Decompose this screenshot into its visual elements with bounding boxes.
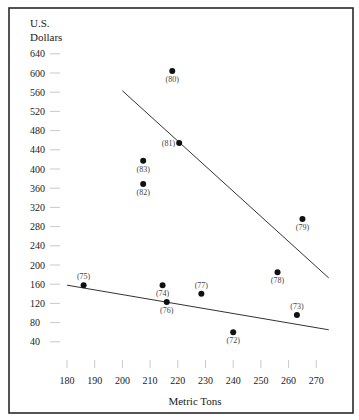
y-tick-label: 360 [30, 183, 45, 194]
y-axis-label-line1: U.S. [30, 17, 50, 29]
data-point [169, 68, 175, 74]
data-point-label: (76) [160, 306, 174, 315]
data-point-label: (79) [296, 223, 310, 232]
data-point-label: (73) [290, 302, 304, 311]
data-point [275, 269, 281, 275]
trend-lines [67, 91, 329, 330]
y-tick-label: 440 [30, 144, 45, 155]
data-point [299, 216, 305, 222]
data-point [160, 282, 166, 288]
y-axis-ticks: 6406005605204804404003603202802402001601… [30, 48, 60, 347]
trend-line [122, 91, 328, 278]
chart-frame [9, 8, 353, 413]
data-point-label: (80) [166, 75, 180, 84]
y-tick-label: 120 [30, 298, 45, 309]
x-tick-label: 250 [253, 375, 268, 386]
data-point [176, 140, 182, 146]
data-points: (72)(73)(74)(75)(76)(77)(78)(79)(80)(81)… [77, 68, 309, 345]
data-point [164, 299, 170, 305]
x-tick-label: 230 [198, 375, 213, 386]
data-point [140, 158, 146, 164]
scatter-chart: U.S. Dollars 640600560520480440400360320… [0, 0, 359, 420]
data-point [81, 282, 87, 288]
x-tick-label: 190 [87, 375, 102, 386]
y-tick-label: 200 [30, 260, 45, 271]
y-tick-label: 280 [30, 221, 45, 232]
x-tick-label: 200 [115, 375, 130, 386]
y-axis-label-line2: Dollars [30, 31, 62, 43]
y-tick-label: 80 [30, 317, 40, 328]
data-point [230, 329, 236, 335]
data-point-label: (81) [162, 139, 176, 148]
data-point [294, 312, 300, 318]
data-point [198, 291, 204, 297]
x-axis-ticks: 180190200210220230240250260270 [60, 360, 324, 386]
y-tick-label: 600 [30, 68, 45, 79]
y-tick-label: 400 [30, 164, 45, 175]
x-tick-label: 240 [226, 375, 241, 386]
data-point-label: (78) [271, 276, 285, 285]
data-point-label: (83) [137, 165, 151, 174]
x-tick-label: 220 [170, 375, 185, 386]
data-point-label: (77) [195, 281, 209, 290]
x-tick-label: 260 [281, 375, 296, 386]
x-axis-label: Metric Tons [168, 395, 221, 407]
data-point-label: (75) [77, 272, 91, 281]
y-tick-label: 520 [30, 106, 45, 117]
x-tick-label: 270 [309, 375, 324, 386]
y-tick-label: 160 [30, 279, 45, 290]
data-point-label: (82) [137, 188, 151, 197]
y-tick-label: 640 [30, 48, 45, 59]
data-point-label: (72) [227, 336, 241, 345]
data-point-label: (74) [156, 289, 170, 298]
x-tick-label: 180 [60, 375, 75, 386]
y-tick-label: 480 [30, 125, 45, 136]
x-tick-label: 210 [143, 375, 158, 386]
y-tick-label: 40 [30, 336, 40, 347]
y-tick-label: 240 [30, 240, 45, 251]
data-point [140, 181, 146, 187]
y-tick-label: 320 [30, 202, 45, 213]
y-tick-label: 560 [30, 87, 45, 98]
